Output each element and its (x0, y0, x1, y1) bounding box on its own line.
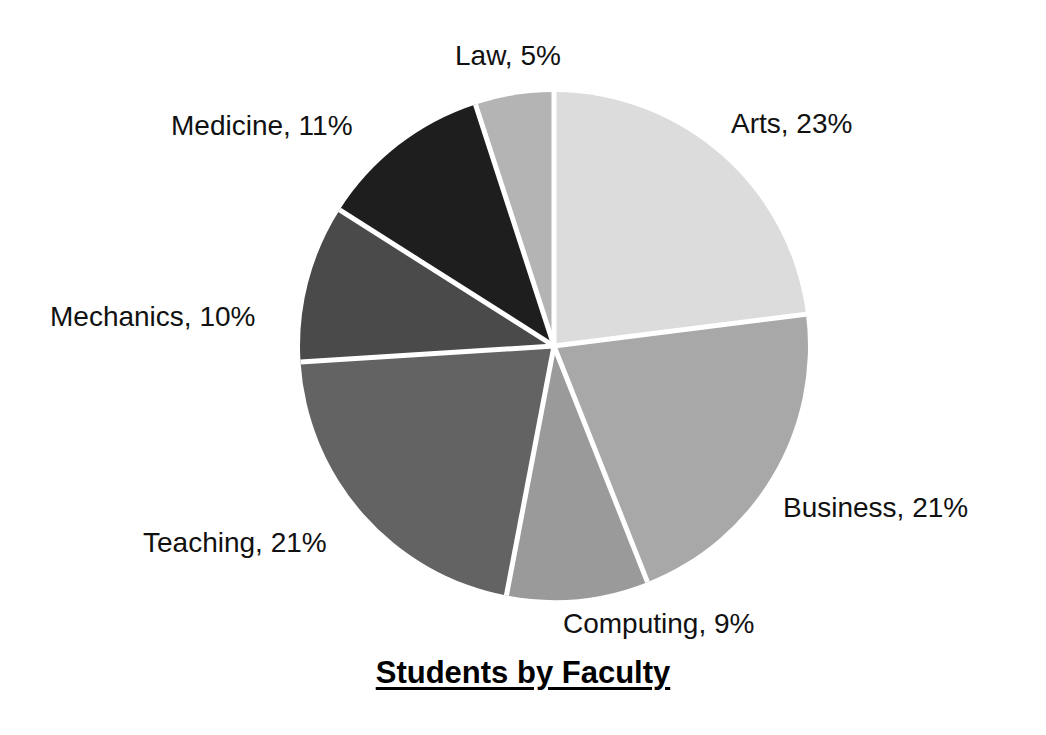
slice-label-computing: Computing, 9% (563, 608, 754, 640)
slice-label-medicine: Medicine, 11% (171, 110, 353, 142)
chart-title-text: Students by Faculty (376, 655, 671, 690)
slice-label-teaching: Teaching, 21% (143, 527, 327, 559)
slice-label-arts: Arts, 23% (731, 108, 852, 140)
pie-chart-page: Law, 5% Medicine, 11% Mechanics, 10% Tea… (0, 0, 1046, 735)
slice-label-law: Law, 5% (455, 40, 561, 72)
slice-label-business: Business, 21% (783, 492, 968, 524)
pie-chart-graphic (0, 0, 1046, 735)
chart-title: Students by Faculty (0, 655, 1046, 691)
slice-label-mechanics: Mechanics, 10% (50, 301, 255, 333)
